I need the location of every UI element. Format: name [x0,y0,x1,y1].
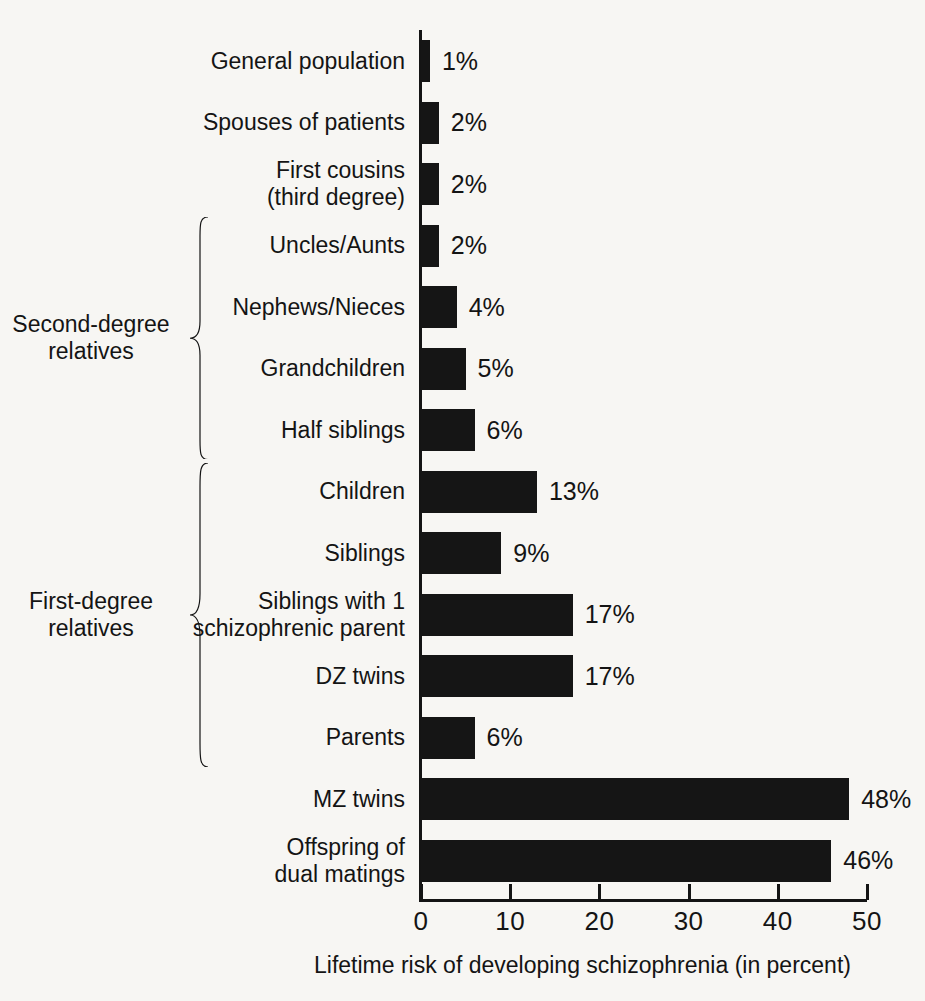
bar [421,655,573,697]
bar-value-label: 2% [439,97,487,149]
bar-category-label: General population [145,35,405,87]
bar [421,40,430,82]
x-axis-line [419,899,867,902]
bar-category-label: Spouses of patients [145,97,405,149]
x-axis-tick [420,884,423,900]
bar [421,471,537,513]
bar-category-label: Siblings with 1 schizophrenic parent [145,589,405,641]
bar-category-label: First cousins (third degree) [145,158,405,210]
x-axis-tick-label: 20 [569,906,629,937]
bar [421,286,457,328]
bar-row: Spouses of patients2% [0,97,925,149]
bar-value-label: 5% [466,343,514,395]
bar-row: First cousins (third degree)2% [0,158,925,210]
x-axis-tick-label: 50 [837,906,897,937]
bar-row: Children13% [0,466,925,518]
bar-value-label: 46% [831,835,893,887]
first-degree-group-label: First-degree relatives [0,588,182,642]
bar-value-label: 6% [475,712,523,764]
bar-value-label: 48% [849,773,911,825]
x-axis-tick [777,884,780,900]
bar [421,594,573,636]
bar-value-label: 6% [475,404,523,456]
bar-category-label: MZ twins [145,773,405,825]
x-axis-title: Lifetime risk of developing schizophreni… [0,952,925,979]
x-axis-tick [688,884,691,900]
bar-value-label: 4% [457,281,505,333]
bar-value-label: 17% [573,589,635,641]
bar [421,778,849,820]
bar-category-label: Offspring of dual matings [145,835,405,887]
bar-row: General population1% [0,35,925,87]
bar [421,532,501,574]
first-degree-brace [188,463,210,767]
bar [421,225,439,267]
x-axis-tick-label: 30 [659,906,719,937]
bar-value-label: 17% [573,650,635,702]
plot-area: General population1%Spouses of patients2… [0,0,925,1001]
bar-row: Siblings9% [0,527,925,579]
bar-row: Half siblings6% [0,404,925,456]
second-degree-group-label: Second-degree relatives [0,311,182,365]
second-degree-brace [188,217,210,460]
x-axis-tick-label: 0 [391,906,451,937]
bar [421,348,466,390]
bar-row: Uncles/Aunts2% [0,220,925,272]
bar [421,840,831,882]
bar-row: Parents6% [0,712,925,764]
bar [421,102,439,144]
bar [421,163,439,205]
x-axis-tick [509,884,512,900]
bar-value-label: 13% [537,466,599,518]
x-axis-tick-label: 10 [480,906,540,937]
bar-category-label: Uncles/Aunts [145,220,405,272]
bar-category-label: DZ twins [145,650,405,702]
bar-category-label: Grandchildren [145,343,405,395]
bar-row: Offspring of dual matings46% [0,835,925,887]
x-axis-tick [598,884,601,900]
bar-value-label: 2% [439,220,487,272]
bar-value-label: 9% [501,527,549,579]
x-axis-tick-label: 40 [748,906,808,937]
bar-value-label: 2% [439,158,487,210]
bar-row: DZ twins17% [0,650,925,702]
schizophrenia-risk-bar-chart: General population1%Spouses of patients2… [0,0,925,1001]
bar-value-label: 1% [430,35,478,87]
bar-category-label: Nephews/Nieces [145,281,405,333]
x-axis-tick [866,884,869,900]
bar-category-label: Siblings [145,527,405,579]
bar [421,717,475,759]
bar-row: MZ twins48% [0,773,925,825]
bar-category-label: Parents [145,712,405,764]
bar [421,409,475,451]
bar-category-label: Half siblings [145,404,405,456]
bar-category-label: Children [145,466,405,518]
